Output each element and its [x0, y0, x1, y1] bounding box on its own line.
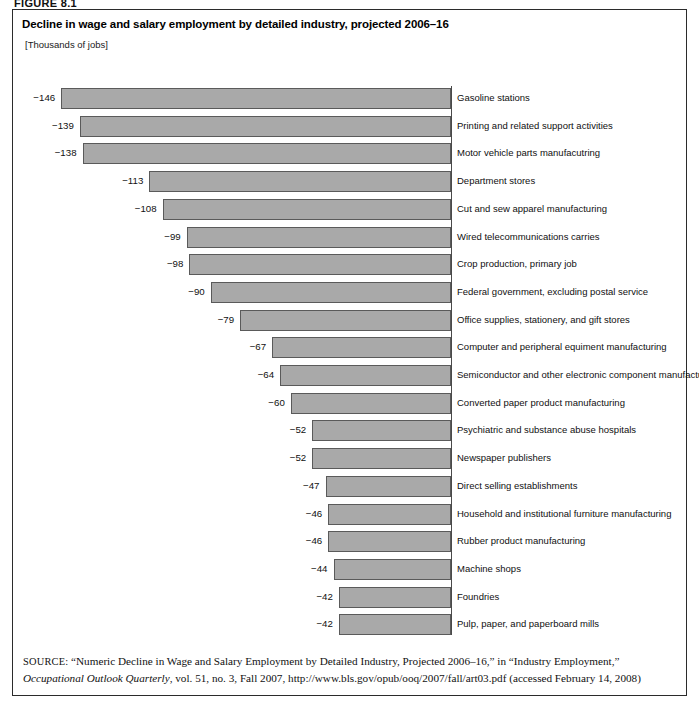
bar-row: −46Household and institutional furniture…: [13, 502, 685, 530]
bar-value-label: −79: [198, 314, 234, 325]
bar-rect: [291, 393, 451, 414]
bar-value-label: −42: [297, 591, 333, 602]
bar-rect: [339, 587, 451, 608]
bar-category-label: Wired telecommunications carries: [457, 231, 600, 242]
bar-category-label: Crop production, primary job: [457, 258, 577, 269]
bar-value-label: −46: [286, 508, 322, 519]
chart-units-label: [Thousands of jobs]: [25, 39, 108, 50]
bar-value-label: −44: [292, 563, 328, 574]
bar-category-label: Cut and sew apparel manufacturing: [457, 203, 607, 214]
bar-value-label: −47: [284, 480, 320, 491]
bar-row: −98Crop production, primary job: [13, 252, 685, 280]
bar-row: −99Wired telecommunications carries: [13, 225, 685, 253]
bar-category-label: Computer and peripheral equiment manufac…: [457, 341, 667, 352]
bar-rect: [80, 116, 451, 137]
bar-rect: [272, 337, 451, 358]
bar-row: −60Converted paper product manufacturing: [13, 391, 685, 419]
bar-category-label: Machine shops: [457, 563, 521, 574]
bar-rect: [312, 420, 451, 441]
chart-title: Decline in wage and salary employment by…: [22, 18, 449, 30]
bar-row: −42Foundries: [13, 585, 685, 613]
bar-value-label: −108: [121, 203, 157, 214]
bar-rect: [187, 227, 451, 248]
bar-row: −79Office supplies, stationery, and gift…: [13, 308, 685, 336]
bar-value-label: −64: [238, 369, 274, 380]
bar-value-label: −42: [297, 618, 333, 629]
bar-rect: [149, 171, 451, 192]
bar-rect: [328, 504, 451, 525]
bar-rect: [61, 88, 451, 109]
bar-rect: [211, 282, 451, 303]
bar-row: −52Psychiatric and substance abuse hospi…: [13, 418, 685, 446]
bar-category-label: Converted paper product manufacturing: [457, 397, 625, 408]
bar-row: −138Motor vehicle parts manufacutring: [13, 141, 685, 169]
bar-value-label: −98: [147, 258, 183, 269]
bar-value-label: −90: [169, 286, 205, 297]
bar-category-label: Household and institutional furniture ma…: [457, 508, 671, 519]
bar-chart-plot-area: −146Gasoline stations−139Printing and re…: [13, 76, 685, 636]
bar-value-label: −67: [230, 341, 266, 352]
bar-rect: [328, 531, 451, 552]
bar-value-label: −60: [249, 397, 285, 408]
bar-category-label: Semiconductor and other electronic compo…: [457, 369, 699, 380]
bar-category-label: Newspaper publishers: [457, 452, 551, 463]
bar-row: −139Printing and related support activit…: [13, 114, 685, 142]
bar-rect: [189, 254, 451, 275]
bar-rect: [280, 365, 451, 386]
bar-value-label: −146: [19, 92, 55, 103]
bar-row: −113Department stores: [13, 169, 685, 197]
bar-category-label: Rubber product manufacturing: [457, 535, 585, 546]
bar-category-label: Federal government, excluding postal ser…: [457, 286, 648, 297]
figure-frame: Decline in wage and salary employment by…: [12, 9, 687, 696]
bar-category-label: Pulp, paper, and paperboard mills: [457, 618, 599, 629]
bar-category-label: Printing and related support activities: [457, 120, 613, 131]
source-keyword: SOURCE:: [23, 656, 68, 667]
bar-row: −46Rubber product manufacturing: [13, 529, 685, 557]
bar-category-label: Office supplies, stationery, and gift st…: [457, 314, 630, 325]
bar-value-label: −139: [38, 120, 74, 131]
bar-row: −44Machine shops: [13, 557, 685, 585]
bar-row: −52Newspaper publishers: [13, 446, 685, 474]
bar-row: −47Direct selling establishments: [13, 474, 685, 502]
bar-row: −90Federal government, excluding postal …: [13, 280, 685, 308]
bar-category-label: Department stores: [457, 175, 535, 186]
bar-row: −42Pulp, paper, and paperboard mills: [13, 612, 685, 640]
bar-category-label: Psychiatric and substance abuse hospital…: [457, 424, 636, 435]
bar-value-label: −46: [286, 535, 322, 546]
bar-value-label: −138: [41, 147, 77, 158]
source-text-part1: “Numeric Decline in Wage and Salary Empl…: [68, 655, 619, 667]
bar-rect: [240, 310, 451, 331]
bar-rect: [83, 143, 451, 164]
bar-row: −64Semiconductor and other electronic co…: [13, 363, 685, 391]
bar-row: −146Gasoline stations: [13, 86, 685, 114]
bar-value-label: −113: [107, 175, 143, 186]
bar-value-label: −99: [145, 231, 181, 242]
bar-row: −108Cut and sew apparel manufacturing: [13, 197, 685, 225]
source-publication-title: Occupational Outlook Quarterly: [23, 672, 170, 684]
bar-rect: [312, 448, 451, 469]
bar-rect: [334, 559, 451, 580]
bar-category-label: Gasoline stations: [457, 92, 530, 103]
bar-value-label: −52: [270, 424, 306, 435]
bar-category-label: Motor vehicle parts manufacutring: [457, 147, 600, 158]
bar-rect: [163, 199, 451, 220]
bar-category-label: Foundries: [457, 591, 499, 602]
bar-row: −67Computer and peripheral equiment manu…: [13, 335, 685, 363]
figure-number-label: FIGURE 8.1: [14, 0, 77, 9]
source-text-part2: , vol. 51, no. 3, Fall 2007, http://www.…: [170, 672, 641, 684]
bar-rect: [326, 476, 451, 497]
bar-category-label: Direct selling establishments: [457, 480, 577, 491]
bar-rect: [339, 614, 451, 635]
bar-value-label: −52: [270, 452, 306, 463]
source-note: SOURCE: “Numeric Decline in Wage and Sal…: [23, 653, 678, 686]
